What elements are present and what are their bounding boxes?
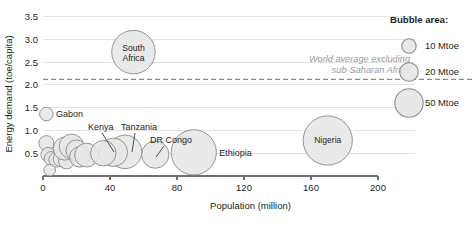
y-axis-tick-labels: 0.51.01.52.02.53.03.5 [25, 11, 38, 159]
bubble-label: South [122, 43, 145, 53]
y-tick-label: 3.5 [25, 11, 38, 22]
y-tick-label: 2.5 [25, 57, 38, 68]
legend-bubble-50 [395, 89, 423, 117]
bubble-label: DR Congo [150, 135, 192, 145]
y-tick-label: 1.0 [25, 125, 38, 136]
bubble-series [39, 30, 353, 176]
bubble-label: Africa [122, 53, 144, 63]
x-tick-label: 200 [370, 182, 386, 193]
annotation-line-1: World average excluding [309, 54, 411, 64]
x-tick-label: 0 [40, 182, 45, 193]
bubble-unlabelled [91, 141, 116, 166]
gridlines [43, 17, 415, 154]
bubble-label: Gabon [56, 109, 83, 119]
bubble-label: Nigeria [314, 135, 341, 145]
legend-title: Bubble area: [390, 14, 448, 25]
chart-canvas: 0.51.01.52.02.53.03.5 04080120160200 Sou… [0, 0, 474, 226]
bubble-unlabelled [44, 164, 56, 176]
y-tick-label: 1.5 [25, 102, 38, 113]
y-tick-label: 3.0 [25, 34, 38, 45]
x-axis-tick-labels: 04080120160200 [40, 182, 386, 193]
x-tick-label: 80 [172, 182, 183, 193]
reference-line-annotation: World average excludingsub-Saharan Afric… [309, 54, 411, 75]
y-tick-label: 2.0 [25, 79, 38, 90]
y-axis-title: Energy demand (toe/capita) [3, 35, 14, 152]
legend-label-20: 20 Mtoe [425, 66, 459, 77]
x-tick-label: 40 [105, 182, 116, 193]
bubble-dr-congo [142, 141, 169, 168]
bubble-chart-figure: 0.51.01.52.02.53.03.5 04080120160200 Sou… [0, 0, 474, 226]
x-tick-label: 120 [236, 182, 252, 193]
bubble-label: Tanzania [121, 122, 157, 132]
annotation-line-2: sub-Saharan Africa [332, 65, 410, 75]
y-tick-label: 0.5 [25, 148, 38, 159]
axes [43, 176, 378, 180]
x-axis-title: Population (million) [210, 200, 291, 211]
bubble-label: Ethiopia [219, 148, 252, 158]
bubble-gabon [40, 107, 53, 120]
bubble-label: Kenya [88, 122, 114, 132]
legend-label-10: 10 Mtoe [425, 40, 459, 51]
x-tick-label: 160 [303, 182, 319, 193]
legend-label-50: 50 Mtoe [425, 97, 459, 108]
legend-bubble-20 [400, 63, 419, 82]
legend-bubble-10 [402, 39, 416, 53]
